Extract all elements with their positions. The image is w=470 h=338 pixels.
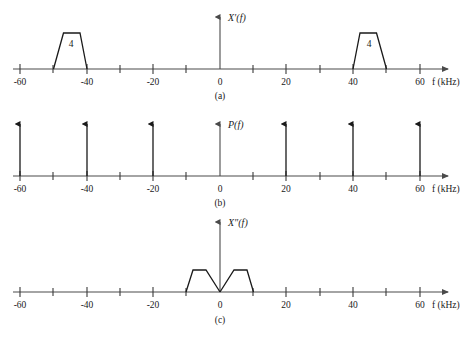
tick-label: 0 <box>218 77 223 87</box>
axis-unit-label-b: f (kHz) <box>432 184 460 195</box>
tick-label: 0 <box>218 184 223 194</box>
spectrum-lobe-negative-c <box>186 270 220 292</box>
axis-label-a: X′(f) <box>227 12 246 24</box>
tick-label: -20 <box>147 300 160 310</box>
tick-label: 40 <box>348 184 358 194</box>
spectrum-lobe-positive-c <box>220 270 254 292</box>
tick-label: -60 <box>14 77 27 87</box>
axis-unit-label-a: f (kHz) <box>432 77 460 88</box>
amplitude-label: 4 <box>367 39 372 49</box>
signal-spectrum-figure: X′(f) -60 -40 -20 0 20 40 60 f (kHz) <box>0 0 470 338</box>
tick-label: -40 <box>81 300 94 310</box>
panel-b: P(f) -60 -40 -20 0 <box>13 119 460 209</box>
tick-label: 20 <box>281 300 291 310</box>
axis-label-c: X″(f) <box>227 217 248 229</box>
axis-label-b: P(f) <box>227 119 244 131</box>
tick-label: -40 <box>81 184 94 194</box>
panel-a: X′(f) -60 -40 -20 0 20 40 60 f (kHz) <box>13 12 460 102</box>
tick-label: -60 <box>14 300 27 310</box>
tick-label: 60 <box>415 184 425 194</box>
tick-label: 20 <box>281 77 291 87</box>
tick-label: -40 <box>81 77 94 87</box>
tick-label: 40 <box>348 77 358 87</box>
tick-label: 60 <box>415 77 425 87</box>
tick-label: 0 <box>218 300 223 310</box>
tick-label: -60 <box>14 184 27 194</box>
panel-caption-b: (b) <box>214 198 225 209</box>
tick-label: -20 <box>147 77 160 87</box>
tick-label: 60 <box>415 300 425 310</box>
panel-caption-a: (a) <box>215 91 226 102</box>
amplitude-label: 4 <box>69 39 74 49</box>
panel-c: X″(f) -60 -40 -20 0 20 40 <box>13 217 460 326</box>
tick-label: 40 <box>348 300 358 310</box>
tick-label: 20 <box>281 184 291 194</box>
axis-unit-label-c: f (kHz) <box>432 300 460 311</box>
tick-label: -20 <box>147 184 160 194</box>
panel-caption-c: (c) <box>215 315 226 326</box>
figure-canvas: X′(f) -60 -40 -20 0 20 40 60 f (kHz) <box>0 0 470 338</box>
